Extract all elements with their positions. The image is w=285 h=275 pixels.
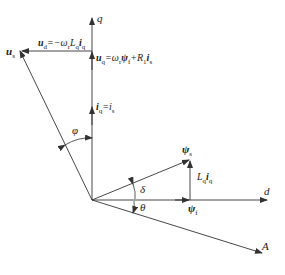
d-axis-label: d [264, 186, 270, 197]
a-axis [92, 200, 262, 253]
theta-label: θ [140, 202, 145, 213]
us-label: us [6, 46, 15, 60]
us-vector [20, 51, 92, 200]
q-axis-label: q [97, 13, 103, 24]
phi-label: φ [72, 125, 78, 136]
theta-arc [133, 201, 134, 213]
delta-label: δ [140, 184, 145, 195]
psif-label: ψf [188, 203, 198, 217]
psis-label: ψs [182, 144, 192, 158]
phi-arc [65, 138, 92, 145]
delta-arc [133, 184, 135, 199]
ud-label: ud=−ωrLqiq [38, 38, 85, 51]
lqiq-label: Lqiq [197, 172, 212, 185]
iq-label: iq=is [96, 102, 115, 115]
a-axis-label: A [262, 241, 269, 252]
uq-label: uq=ωrψf+R1is [96, 53, 152, 66]
